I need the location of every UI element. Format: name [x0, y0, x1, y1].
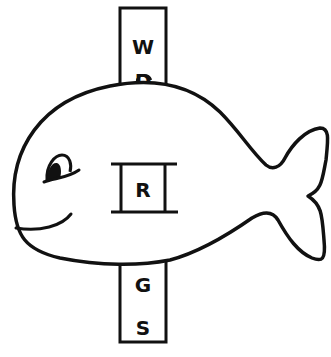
strip-letter-w: W [132, 35, 154, 59]
strip-letter-g: G [135, 273, 151, 297]
whale-letter-slider-illustration: W D G S R [0, 0, 331, 357]
strip-letter-s: S [136, 316, 150, 340]
window-letter: R [135, 178, 150, 202]
